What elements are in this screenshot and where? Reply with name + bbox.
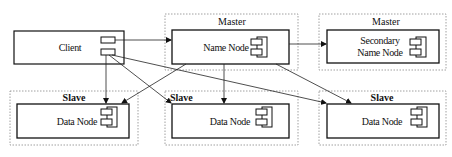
secondary-name-node-label-1: Secondary <box>350 35 410 46</box>
data-node-label-1: Data Node <box>52 116 102 127</box>
master-title-1: Master <box>210 16 254 27</box>
master-title-2: Master <box>364 16 408 27</box>
slave-title-3: Slave <box>362 92 402 103</box>
secondary-name-node-label-2: Name Node <box>350 47 410 58</box>
data-node-label-2: Data Node <box>205 116 255 127</box>
slave-title-1: Slave <box>54 92 94 103</box>
name-node-label: Name Node <box>196 42 256 53</box>
data-node-label-3: Data Node <box>357 116 407 127</box>
client-port-bottom <box>101 49 115 55</box>
client-label: Client <box>50 42 90 53</box>
client-port-top <box>101 37 115 43</box>
slave-title-2: Slave <box>170 92 210 103</box>
